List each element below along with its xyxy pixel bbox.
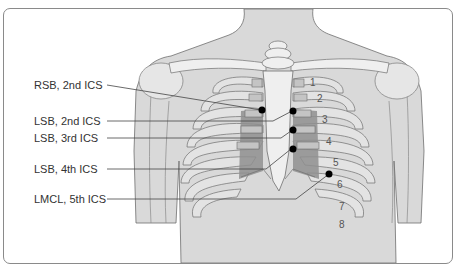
label-lsb-4th-ics: LSB, 4th ICS <box>34 163 98 175</box>
label-lsb-3rd-ics: LSB, 3rd ICS <box>34 132 98 144</box>
label-lmcl-5th-ics: LMCL, 5th ICS <box>34 193 106 205</box>
label-lsb-2nd-ics: LSB, 2nd ICS <box>34 115 101 127</box>
rib-number-6: 6 <box>337 180 343 190</box>
rib-number-3: 3 <box>322 115 328 125</box>
rib-number-1: 1 <box>310 78 316 88</box>
rib-number-8: 8 <box>339 220 345 230</box>
rib-number-4: 4 <box>326 137 332 147</box>
rib-number-2: 2 <box>317 94 323 104</box>
diagram-frame: RSB, 2nd ICS LSB, 2nd ICS LSB, 3rd ICS L… <box>3 8 453 264</box>
rib-number-7: 7 <box>339 202 345 212</box>
label-rsb-2nd-ics: RSB, 2nd ICS <box>34 79 102 91</box>
rib-number-5: 5 <box>333 158 339 168</box>
